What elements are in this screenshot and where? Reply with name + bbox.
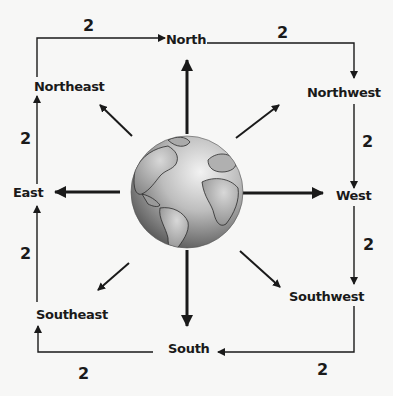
weight-southeast-east: 2 — [20, 246, 31, 262]
arrow-northwest — [236, 105, 279, 138]
arrow-southeast — [98, 263, 129, 290]
node-west: West — [336, 189, 371, 203]
node-south: South — [168, 342, 210, 356]
node-southwest: Southwest — [289, 290, 364, 304]
compass-diagram: North Northwest West Southwest South Sou… — [0, 0, 393, 396]
edge-southwest-south — [218, 306, 354, 352]
weight-northeast-north: 2 — [83, 18, 94, 34]
node-northwest: Northwest — [307, 86, 381, 100]
weight-west-southwest: 2 — [363, 237, 374, 253]
node-northeast: Northeast — [34, 80, 105, 94]
globe-icon — [131, 136, 243, 250]
diagram-lines — [0, 0, 393, 396]
weight-northwest-west: 2 — [362, 134, 373, 150]
weight-north-northwest: 2 — [277, 25, 288, 41]
weight-south-southeast: 2 — [78, 366, 89, 382]
arrow-southwest — [240, 251, 280, 287]
weight-east-northeast: 2 — [20, 131, 31, 147]
node-east: East — [13, 186, 43, 200]
edge-south-southeast — [38, 326, 153, 352]
node-north: North — [166, 33, 206, 47]
weight-southwest-south: 2 — [317, 362, 328, 378]
edge-northeast-north — [37, 38, 165, 77]
arrow-northeast — [100, 105, 132, 136]
edge-north-northwest — [207, 43, 354, 78]
node-southeast: Southeast — [36, 308, 108, 322]
